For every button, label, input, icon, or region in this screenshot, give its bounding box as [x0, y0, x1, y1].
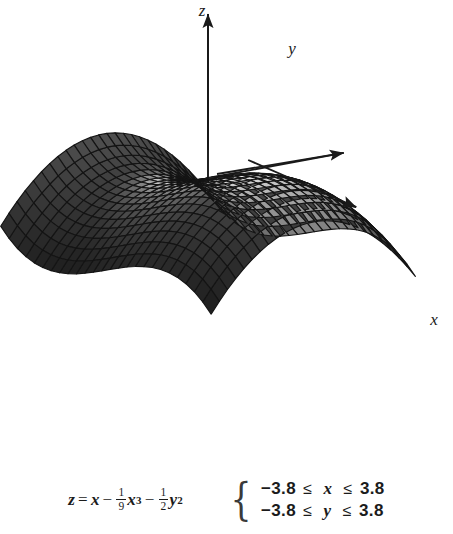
constraint-variable: y: [320, 501, 336, 520]
constraint-rel-lower: ≤: [301, 480, 314, 497]
domain-constraints: { −3.8 ≤ x ≤ 3.8 −3.8 ≤ y ≤ 3.8: [227, 478, 385, 522]
constraint-rel-upper: ≤: [342, 480, 355, 497]
figure-page: z y x z = x − 1 9 x 3 − 1 2 y 2 {: [0, 0, 453, 534]
equation-fraction-one-half: 1 2: [159, 486, 169, 511]
constraint-variable: x: [320, 479, 337, 498]
constraint-upper: 3.8: [360, 479, 385, 498]
equation-term3: y: [169, 490, 177, 510]
axis-label-y: y: [286, 39, 296, 58]
surface-plot-figure: z y x: [0, 0, 453, 534]
axis-label-x: x: [429, 310, 438, 329]
constraint-lower: −3.8: [261, 501, 296, 520]
surface-equation: z = x − 1 9 x 3 − 1 2 y 2: [68, 487, 183, 512]
constraint-lower: −3.8: [261, 479, 296, 498]
equation-term2: x: [127, 490, 136, 510]
equation-term3-exponent: 2: [177, 494, 183, 506]
fraction-denominator: 2: [159, 499, 169, 512]
constraint-rows: −3.8 ≤ x ≤ 3.8 −3.8 ≤ y ≤ 3.8: [261, 479, 385, 521]
equation-fraction-one-ninth: 1 9: [116, 486, 126, 511]
equation-op2: −: [145, 490, 155, 510]
caption-row: z = x − 1 9 x 3 − 1 2 y 2 { −3.8 ≤: [0, 466, 453, 534]
constraint-row-y: −3.8 ≤ y ≤ 3.8: [261, 501, 385, 521]
constraint-rel-lower: ≤: [301, 502, 314, 519]
constraint-row-x: −3.8 ≤ x ≤ 3.8: [261, 479, 385, 499]
axis-label-z: z: [198, 1, 206, 20]
fraction-numerator: 1: [116, 486, 126, 498]
equation-term1: x: [91, 490, 100, 510]
constraint-rel-upper: ≤: [341, 502, 354, 519]
equation-equals: =: [78, 490, 88, 510]
equation-lhs: z: [68, 490, 75, 510]
brace-glyph: {: [230, 478, 251, 522]
fraction-denominator: 9: [116, 499, 126, 512]
constraint-upper: 3.8: [359, 501, 384, 520]
equation-op1: −: [103, 490, 113, 510]
fraction-numerator: 1: [159, 486, 169, 498]
equation-term2-exponent: 3: [136, 494, 142, 506]
